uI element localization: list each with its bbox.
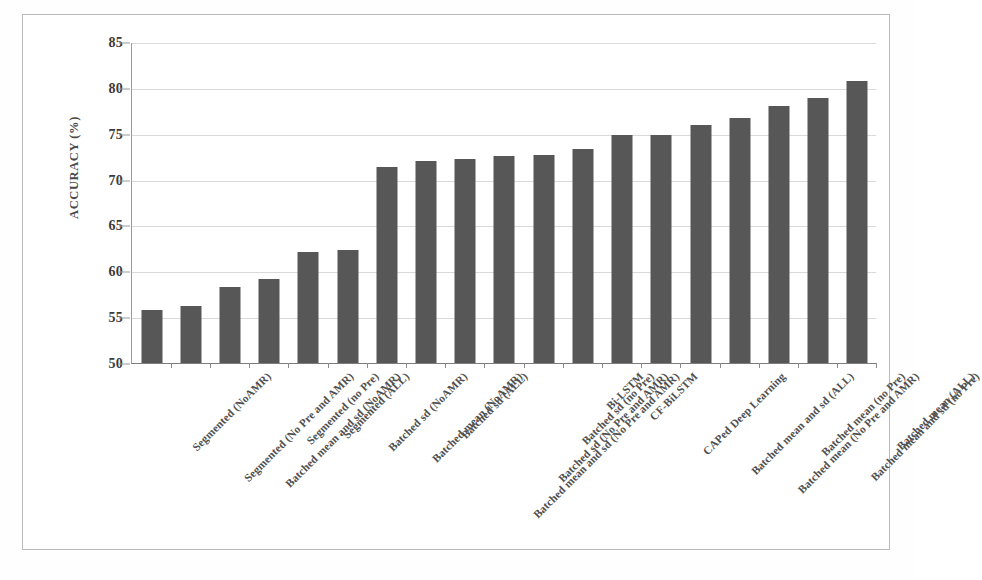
bar-slot (524, 43, 563, 363)
x-axis-tick-mark (249, 363, 250, 368)
bar[interactable] (259, 279, 280, 363)
bar-slot (642, 43, 681, 363)
y-axis-tick-label: 85 (83, 35, 123, 51)
bar-slot (759, 43, 798, 363)
x-axis-tick-mark (798, 363, 799, 368)
x-axis-tick-label: Batched mean and sd (No Pre and AMR) (531, 370, 681, 520)
x-axis-tick-mark (524, 363, 525, 368)
bar-slot (210, 43, 249, 363)
y-axis-tick-mark (119, 180, 130, 181)
bar-slot (485, 43, 524, 363)
x-axis-tick-labels: Segmented (NoAMR)Segmented (No Pre and A… (131, 370, 876, 550)
bar-slot (563, 43, 602, 363)
bar[interactable] (690, 125, 711, 363)
bar[interactable] (141, 310, 162, 363)
x-axis-tick-mark (680, 363, 681, 368)
bar[interactable] (729, 118, 750, 363)
bar-slot (171, 43, 210, 363)
bar-slot (250, 43, 289, 363)
bar-slot (720, 43, 759, 363)
bar-slot (838, 43, 877, 363)
x-axis-tick-mark (759, 363, 760, 368)
y-axis-tick-label: 55 (83, 310, 123, 326)
y-axis-tick-mark (119, 134, 130, 135)
bar[interactable] (337, 250, 358, 363)
bar[interactable] (180, 306, 201, 363)
x-axis-tick-mark (210, 363, 211, 368)
x-axis-tick-mark (720, 363, 721, 368)
bar[interactable] (376, 167, 397, 363)
x-axis-tick-mark (171, 363, 172, 368)
bar[interactable] (416, 161, 437, 363)
x-axis-tick-label: Batched mean (No Pre and AMR) (795, 370, 921, 496)
x-axis-tick-label: Segmented (NoAMR) (190, 370, 273, 453)
x-axis-tick-label: Batched sd (No Pre and AMR) (555, 370, 669, 484)
x-axis-tick-mark (288, 363, 289, 368)
y-axis-tick-label: 65 (83, 218, 123, 234)
bar[interactable] (494, 156, 515, 363)
bar-slot (406, 43, 445, 363)
x-axis-tick-mark (563, 363, 564, 368)
bar-slot (132, 43, 171, 363)
bar-slot (446, 43, 485, 363)
bar-slot (328, 43, 367, 363)
plot-area (131, 43, 876, 364)
y-axis-tick-label: 80 (83, 81, 123, 97)
x-axis-tick-mark (837, 363, 838, 368)
x-axis-tick-mark (602, 363, 603, 368)
y-axis-tick-labels: 5055606570758085 (75, 43, 123, 364)
y-axis-ticks (119, 43, 131, 364)
y-axis-tick-label: 60 (83, 264, 123, 280)
y-axis-tick-mark (119, 318, 130, 319)
bar-slot (367, 43, 406, 363)
bar[interactable] (572, 149, 593, 363)
bar[interactable] (220, 287, 241, 363)
x-axis-tick-label: Batched sd (ALL) (459, 370, 530, 441)
bar[interactable] (651, 135, 672, 363)
bar[interactable] (768, 106, 789, 363)
y-axis-tick-mark (119, 226, 130, 227)
bar[interactable] (298, 252, 319, 363)
bar[interactable] (533, 155, 554, 363)
x-axis-tick-mark (641, 363, 642, 368)
bar-slot (289, 43, 328, 363)
bar-slot (603, 43, 642, 363)
bar[interactable] (808, 98, 829, 363)
bar-slot (681, 43, 720, 363)
bar[interactable] (612, 135, 633, 363)
y-axis-tick-mark (119, 364, 130, 365)
x-axis-tick-mark (406, 363, 407, 368)
x-axis-tick-mark (876, 363, 877, 368)
bar-series (132, 43, 876, 363)
bar-slot (799, 43, 838, 363)
y-axis-tick-mark (119, 43, 130, 44)
y-axis-tick-mark (119, 88, 130, 89)
bar[interactable] (455, 159, 476, 363)
y-axis-tick-label: 70 (83, 173, 123, 189)
x-axis-tick-mark (484, 363, 485, 368)
y-axis-tick-mark (119, 272, 130, 273)
y-axis-tick-label: 75 (83, 127, 123, 143)
x-axis-tick-mark (367, 363, 368, 368)
y-axis-tick-label: 50 (83, 356, 123, 372)
x-axis-tick-mark (445, 363, 446, 368)
bar[interactable] (847, 81, 868, 363)
x-axis-tick-mark (328, 363, 329, 368)
